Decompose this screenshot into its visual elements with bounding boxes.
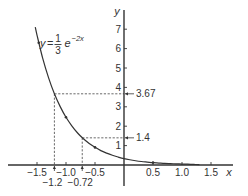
y-value-label: 3.67 — [136, 88, 156, 99]
fraction-denominator: 3 — [55, 45, 61, 56]
guide-lines — [53, 92, 134, 171]
y-tick-label: 3 — [115, 101, 121, 112]
y-tick-label: 2 — [115, 121, 121, 132]
arrowhead-icon — [125, 92, 128, 95]
function-base: e — [65, 37, 71, 49]
x-value-label: −0.72 — [68, 177, 94, 188]
y-tick-label: 4 — [115, 82, 121, 93]
y-tick-label: 7 — [115, 24, 121, 35]
function-exponent: −2x — [72, 34, 85, 43]
x-value-label: −1.2 — [43, 177, 63, 188]
function-lhs: y — [39, 37, 47, 49]
arrowhead-icon — [81, 166, 84, 169]
x-tick-label: 1.0 — [175, 167, 189, 178]
x-tick-label: 1.5 — [204, 167, 218, 178]
y-tick-label: 5 — [115, 63, 121, 74]
chart-figure: −1.5−1.0−0.50.51.01.512345673.67−1.21.4−… — [0, 0, 248, 196]
y-tick-label: 6 — [115, 43, 121, 54]
y-value-label: 1.4 — [136, 132, 150, 143]
y-tick-label: 1 — [115, 140, 121, 151]
function-label: y = 1 3 e −2x — [39, 33, 84, 56]
x-axis-label: x — [225, 166, 232, 178]
curve-marker — [94, 146, 97, 149]
curve-marker — [152, 161, 155, 164]
fraction-numerator: 1 — [55, 33, 61, 44]
curve-marker — [65, 116, 68, 119]
chart-plot: −1.5−1.0−0.50.51.01.512345673.67−1.21.4−… — [0, 0, 248, 196]
function-equals: = — [47, 37, 53, 49]
x-tick-label: 0.5 — [146, 167, 160, 178]
y-axis-label: y — [113, 5, 121, 17]
arrowhead-icon — [125, 136, 128, 139]
